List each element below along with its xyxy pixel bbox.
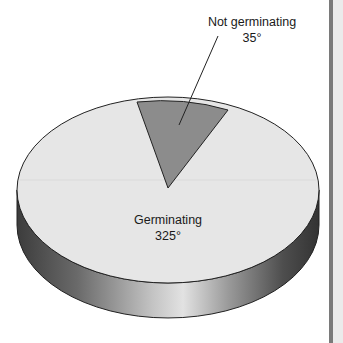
- label-germinating: Germinating 325°: [100, 212, 236, 244]
- label-not-germinating: Not germinating 35°: [196, 14, 308, 46]
- label-not-germinating-value: 35°: [196, 30, 308, 46]
- label-germinating-name: Germinating: [100, 212, 236, 228]
- page-edge-background: [333, 0, 343, 343]
- label-not-germinating-name: Not germinating: [196, 14, 308, 30]
- pie-chart: [0, 0, 343, 343]
- label-germinating-value: 325°: [100, 228, 236, 244]
